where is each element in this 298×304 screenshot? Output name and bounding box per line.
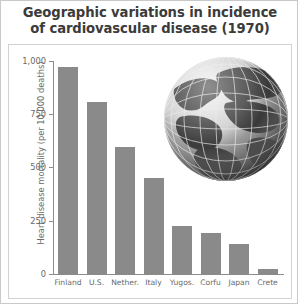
bar-slot-corfu bbox=[197, 61, 226, 275]
x-tick-label-crete: Crete bbox=[248, 278, 288, 287]
bar-slot-italy bbox=[140, 61, 169, 275]
bar-us bbox=[87, 102, 107, 275]
chart-title-line-2: of cardiovascular disease (1970) bbox=[1, 21, 298, 37]
bar-nether bbox=[115, 147, 135, 275]
bar-finland bbox=[58, 67, 78, 275]
bar-series bbox=[54, 61, 284, 275]
bar-italy bbox=[144, 178, 164, 275]
bar-slot-japan bbox=[225, 61, 254, 275]
y-tick-label-500: 500 bbox=[8, 163, 46, 171]
bar-slot-us bbox=[83, 61, 112, 275]
y-tick-label-1000: 1,000 bbox=[8, 57, 46, 65]
y-tick-label-250: 250 bbox=[8, 217, 46, 225]
bar-corfu bbox=[201, 233, 221, 275]
bar-slot-nether bbox=[111, 61, 140, 275]
bar-slot-crete bbox=[254, 61, 283, 275]
chart-title: Geographic variations in incidence of ca… bbox=[1, 5, 298, 36]
y-tick-label-0: 0 bbox=[8, 270, 46, 278]
bar-japan bbox=[229, 244, 249, 275]
y-tick-label-750: 750 bbox=[8, 110, 46, 118]
bar-slot-yugos bbox=[168, 61, 197, 275]
chart-title-line-1: Geographic variations in incidence bbox=[1, 5, 298, 21]
bar-slot-finland bbox=[54, 61, 83, 275]
bar-yugos bbox=[172, 226, 192, 275]
bar-crete bbox=[258, 269, 278, 275]
plot-area: Heart disease mortality (per 10,000 deat… bbox=[8, 44, 292, 299]
chart-figure: Geographic variations in incidence of ca… bbox=[0, 0, 298, 304]
